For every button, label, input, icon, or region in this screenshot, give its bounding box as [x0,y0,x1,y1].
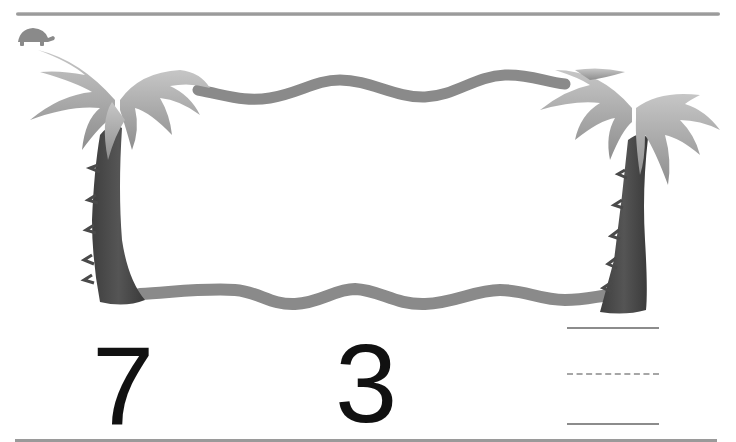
right-palm-tree [540,68,720,313]
writing-line-middle-dashed [567,373,659,375]
bottom-rope [140,289,610,304]
right-number: 3 [335,328,397,440]
writing-line-baseline [567,423,659,425]
turtle-icon [18,28,55,46]
left-palm-tree [30,50,210,305]
left-number: 7 [92,330,154,442]
top-rope [198,75,565,99]
writing-line-top [567,327,659,329]
